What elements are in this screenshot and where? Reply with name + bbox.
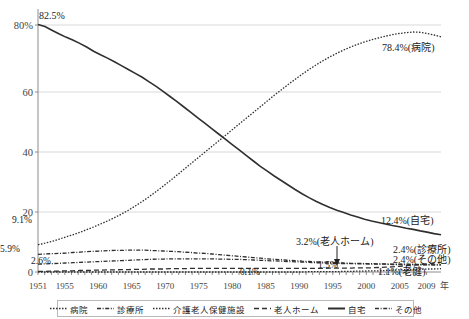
annotation-jitaku-start: 82.5% (39, 10, 65, 21)
x-tick-label: 2000 (357, 281, 376, 291)
x-tick-label: 1985 (257, 281, 276, 291)
x-tick-label: 1975 (190, 281, 209, 291)
y-axis-labels: 80% 60 40 20 0 (14, 20, 34, 278)
legend-item-jitaku[interactable]: 自宅 (328, 303, 366, 315)
series-line-自宅 (38, 25, 441, 235)
legend-item-byoin[interactable]: 病院 (50, 303, 88, 315)
series-layer (38, 25, 441, 273)
x-axis-unit-label: 年 (440, 280, 449, 291)
legend-label: その他 (395, 303, 422, 315)
series-line-その他 (38, 259, 441, 265)
x-axis-labels: 1951 1955 1960 1965 1970 1975 1980 1985 … (29, 280, 449, 291)
chart-container: 80% 60 40 20 0 1951 1955 1960 1965 1970 … (0, 0, 469, 319)
x-tick-label: 1965 (123, 281, 142, 291)
annotation-sonota-start: 2.6% (31, 256, 51, 266)
annotation-shinryojo-start: 5.9% (0, 244, 20, 254)
x-tick-label: 1995 (324, 281, 343, 291)
axes (38, 9, 441, 272)
y-tick-label: 60 (23, 87, 34, 98)
legend-marker-dotted (50, 305, 67, 312)
legend-label: 自宅 (348, 303, 366, 315)
chart-legend: 病院 診療所 介護老人保健施設 老人ホーム 自宅 その他 (57, 300, 414, 317)
x-tick-label: 2005 (391, 281, 410, 291)
legend-item-roujin-home[interactable]: 老人ホーム (254, 303, 319, 315)
x-tick-label: 2009 (418, 281, 437, 291)
legend-marker-dashed (254, 305, 271, 312)
series-line-病院 (38, 32, 441, 245)
x-tick-label: 1980 (223, 281, 242, 291)
legend-marker-dashdot (375, 305, 392, 312)
y-tick-label: 0 (28, 267, 33, 278)
annotation-jitaku-end: 12.4%(自宅) (381, 214, 434, 227)
legend-label: 病院 (70, 303, 88, 315)
annotation-byoin-end: 78.4%(病院) (382, 41, 435, 54)
line-chart: 80% 60 40 20 0 1951 1955 1960 1965 1970 … (0, 0, 469, 319)
legend-label: 診療所 (117, 303, 144, 315)
x-tick-label: 1970 (156, 281, 175, 291)
legend-marker-solid (328, 305, 345, 312)
annotation-byoin-start: 9.1% (12, 215, 32, 225)
legend-marker-dotted (153, 305, 170, 312)
legend-item-roken[interactable]: 介護老人保健施設 (153, 303, 245, 315)
annotations: 82.5% 9.1% 5.9% 2.6% 78.4%(病院) 12.4%(自宅)… (0, 10, 451, 278)
legend-item-sonota[interactable]: その他 (375, 303, 422, 315)
annotation-roken-end: 1.1%(老健) (378, 265, 426, 278)
x-tick-label: 1960 (89, 281, 108, 291)
x-tick-label: 1955 (56, 281, 75, 291)
annotation-sonota-end: 2.4%(その他) (393, 253, 451, 266)
y-tick-label: 40 (23, 147, 34, 158)
annotation-roken-start: 0.1% (240, 267, 260, 277)
y-tick-label: 80% (14, 20, 34, 31)
series-line-診療所 (38, 250, 441, 265)
annotation-roujin-home: 3.2%(老人ホーム) (296, 235, 374, 248)
legend-label: 介護老人保健施設 (173, 303, 245, 315)
legend-label: 老人ホーム (274, 303, 319, 315)
x-tick-label: 1951 (29, 281, 47, 291)
annotation-roujin-home-mid: 1.5% (318, 260, 338, 270)
legend-item-shinryojo[interactable]: 診療所 (97, 303, 144, 315)
x-tick-label: 1990 (290, 281, 309, 291)
legend-marker-dashdot (97, 305, 114, 312)
